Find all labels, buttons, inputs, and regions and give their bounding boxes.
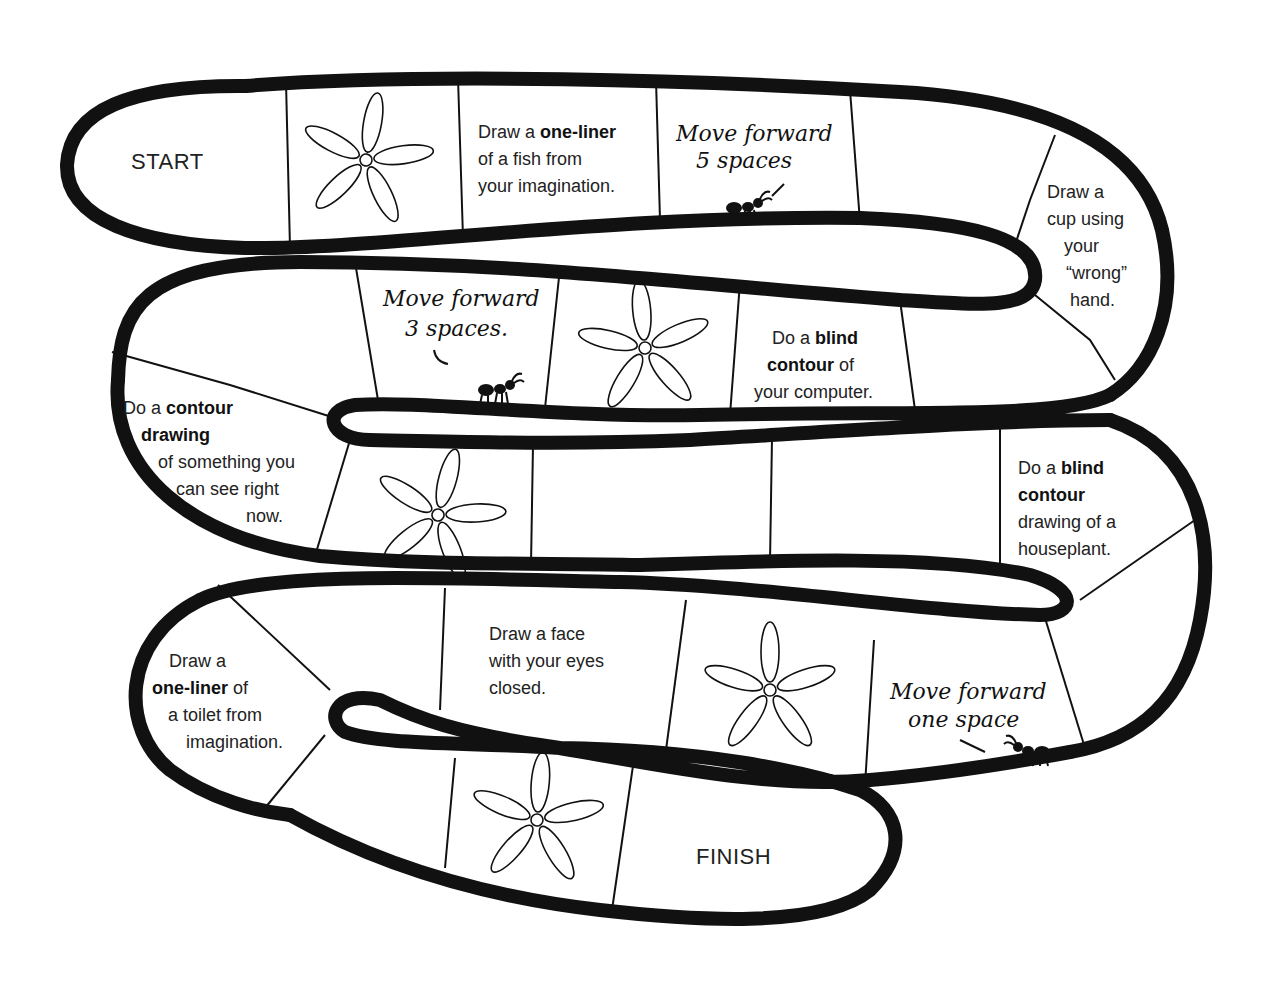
prompt-line: a toilet from xyxy=(168,702,262,729)
ant-icon xyxy=(478,374,524,404)
prompt-line: Draw a xyxy=(1047,179,1104,206)
prompt-line: your imagination. xyxy=(478,173,615,200)
flower-icon xyxy=(289,81,444,231)
prompt-line: one-liner of xyxy=(152,675,248,702)
prompt-line: Draw a one-liner xyxy=(478,119,616,146)
prompt-line: can see right xyxy=(176,476,279,503)
prompt-line: cup using xyxy=(1047,206,1124,233)
prompt-line: Draw a xyxy=(169,648,226,675)
flower-icon xyxy=(572,274,718,414)
finish-label: FINISH xyxy=(696,844,771,870)
prompt-line: closed. xyxy=(489,675,546,702)
prompt-line: of a fish from xyxy=(478,146,582,173)
move-instruction: Move forward xyxy=(890,678,1047,706)
prompt-line: with your eyes xyxy=(489,648,604,675)
move-instruction: Move forward xyxy=(383,285,540,313)
move-instruction: Move forward xyxy=(676,120,833,148)
prompt-line: your xyxy=(1064,233,1099,260)
flower-icon xyxy=(465,746,611,886)
prompt-line: now. xyxy=(246,503,283,530)
prompt-line: drawing xyxy=(141,422,210,449)
prompt-line: Do a contour xyxy=(123,395,233,422)
prompt-line: “wrong” xyxy=(1066,260,1127,287)
move-instruction: 5 spaces xyxy=(696,147,792,175)
prompt-line: contour of xyxy=(767,352,854,379)
prompt-line: hand. xyxy=(1070,287,1115,314)
prompt-line: Draw a face xyxy=(489,621,585,648)
start-label: START xyxy=(131,149,204,175)
prompt-line: of something you xyxy=(158,449,295,476)
prompt-line: your computer. xyxy=(754,379,873,406)
prompt-line: houseplant. xyxy=(1018,536,1111,563)
prompt-line: Do a blind xyxy=(1018,455,1104,482)
prompt-line: contour xyxy=(1018,482,1085,509)
prompt-line: Do a blind xyxy=(772,325,858,352)
prompt-line: drawing of a xyxy=(1018,509,1116,536)
move-instruction: one space xyxy=(908,706,1019,734)
move-instruction: 3 spaces. xyxy=(405,315,508,343)
flower-icon xyxy=(703,622,838,750)
prompt-line: imagination. xyxy=(186,729,283,756)
